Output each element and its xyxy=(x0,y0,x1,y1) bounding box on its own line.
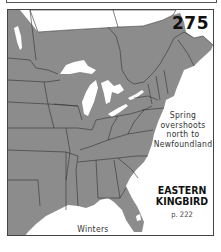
range-map-frame: 275 Spring overshoots north to Newfoundl… xyxy=(7,9,214,236)
map-number: 275 xyxy=(172,15,209,32)
page-reference: p. 222 xyxy=(148,211,214,219)
species-title-line-2: KINGBIRD xyxy=(148,196,214,207)
page-top-rule xyxy=(6,0,217,3)
species-title: EASTERN KINGBIRD xyxy=(148,185,214,207)
spring-note-line-4: Newfoundland xyxy=(151,140,214,150)
winter-note: Winters S. America xyxy=(48,225,138,236)
winter-note-line-2: S. America xyxy=(48,235,138,237)
spring-note: Spring overshoots north to Newfoundland xyxy=(151,111,214,149)
